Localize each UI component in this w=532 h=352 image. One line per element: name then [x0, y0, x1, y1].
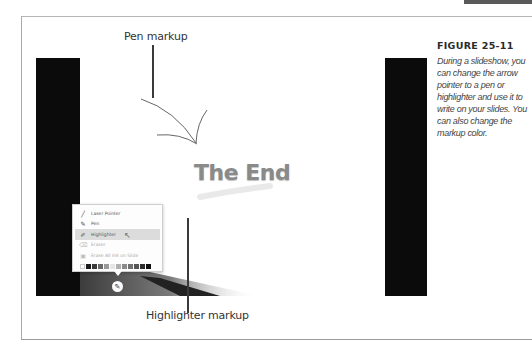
highlighter-markup-leader-line	[187, 218, 189, 313]
laser-pointer-icon: ╱	[79, 210, 87, 217]
page-tab-marker	[464, 0, 532, 4]
mouse-cursor-icon: ↖	[124, 231, 131, 240]
slide-title: The End	[194, 160, 290, 185]
menu-item-laser-pointer[interactable]: ╱ Laser Pointer	[75, 208, 160, 219]
pen-icon: ✎	[115, 283, 121, 291]
color-swatch[interactable]	[140, 264, 145, 269]
menu-item-label: Eraser	[91, 242, 105, 247]
color-swatch[interactable]	[92, 264, 97, 269]
color-swatch[interactable]	[98, 264, 103, 269]
eraser-icon: ⌫	[79, 241, 87, 248]
menu-item-label: Laser Pointer	[91, 211, 120, 216]
ink-options-menu: ╱ Laser Pointer ✎ Pen ✐ Highlighter ⌫ Er…	[72, 204, 163, 272]
color-swatch[interactable]	[104, 264, 109, 269]
pen-icon: ✎	[79, 220, 87, 227]
color-swatch[interactable]	[128, 264, 133, 269]
slide-right-black-bar	[385, 58, 427, 296]
pen-markup-leader-line	[152, 45, 154, 98]
menu-item-pen[interactable]: ✎ Pen	[75, 219, 160, 230]
pen-markup-label: Pen markup	[124, 30, 187, 43]
menu-item-highlighter[interactable]: ✐ Highlighter	[75, 229, 160, 240]
color-swatch[interactable]	[146, 264, 151, 269]
figure-heading: FIGURE 25-11	[437, 40, 532, 51]
pen-options-button[interactable]: ✎	[112, 281, 123, 292]
menu-item-label: Pen	[91, 221, 99, 226]
color-swatch[interactable]	[80, 264, 85, 269]
highlighter-markup-label: Highlighter markup	[146, 309, 249, 322]
color-swatch[interactable]	[134, 264, 139, 269]
menu-item-label: Erase All Ink on Slide	[91, 253, 138, 258]
highlighter-icon: ✐	[79, 231, 87, 238]
color-swatch[interactable]	[122, 264, 127, 269]
color-swatch[interactable]	[86, 264, 91, 269]
figure-caption: FIGURE 25-11 During a slideshow, you can…	[437, 40, 532, 139]
ink-color-palette	[75, 261, 160, 269]
color-swatch[interactable]	[110, 264, 115, 269]
menu-item-eraser[interactable]: ⌫ Eraser	[75, 240, 160, 251]
erase-all-icon: ▣	[79, 252, 87, 259]
menu-item-label: Highlighter	[91, 232, 116, 237]
menu-item-erase-all-ink[interactable]: ▣ Erase All Ink on Slide	[75, 250, 160, 261]
figure-caption-text: During a slideshow, you can change the a…	[437, 55, 532, 139]
color-swatch[interactable]	[116, 264, 121, 269]
